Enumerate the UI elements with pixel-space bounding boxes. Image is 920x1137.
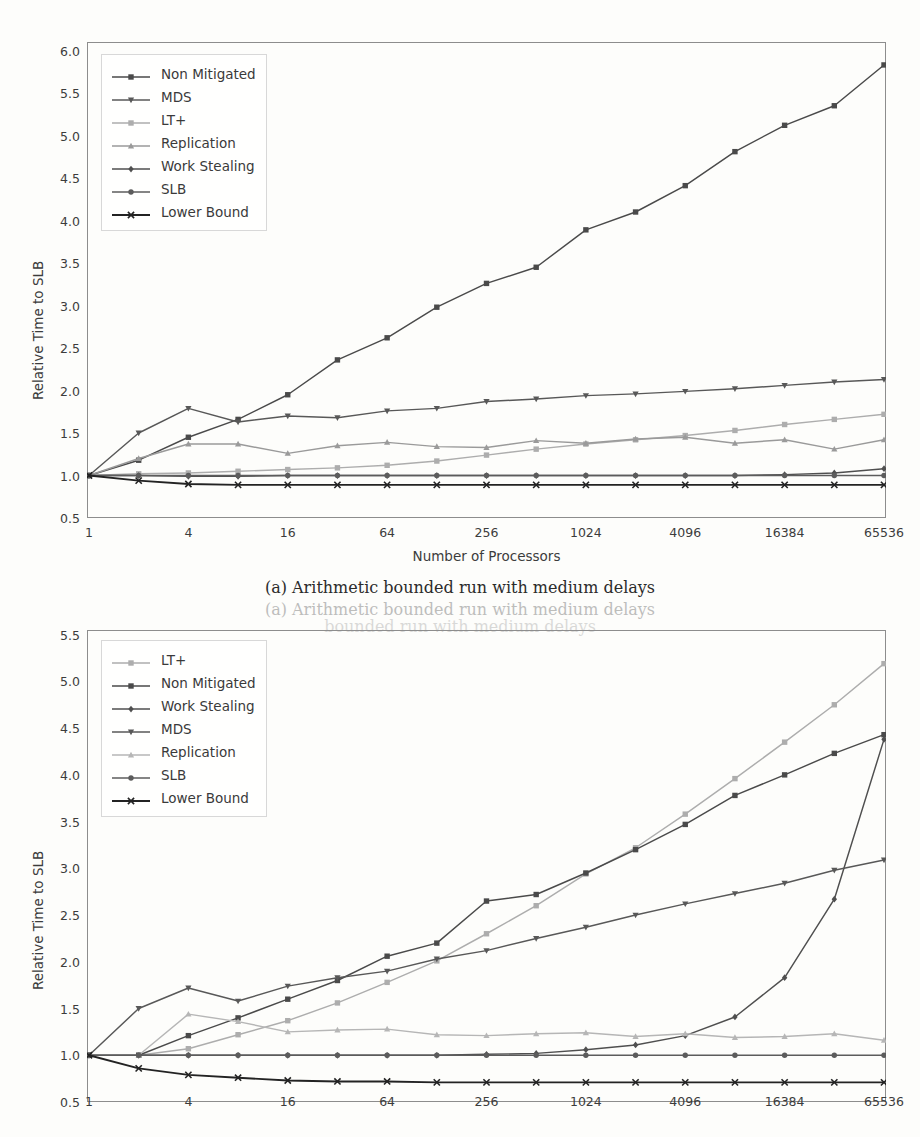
- series-replication: [87, 1011, 886, 1058]
- marker-square: [583, 227, 588, 232]
- series-slb: [87, 1053, 886, 1058]
- legend-item-slb[interactable]: SLB: [110, 763, 256, 786]
- x-tick-label: 4096: [669, 1094, 701, 1109]
- legend-item-replication[interactable]: Replication: [110, 131, 256, 154]
- marker-square: [186, 1046, 191, 1051]
- legend-swatch-icon: [110, 723, 152, 735]
- marker-square: [533, 265, 538, 270]
- marker-square: [285, 467, 290, 472]
- legend-item-mds[interactable]: MDS: [110, 717, 256, 740]
- y-tick-label: 1.0: [60, 468, 80, 483]
- marker-square: [683, 811, 688, 816]
- marker-circle: [683, 1053, 688, 1058]
- legend-item-label: Lower Bound: [161, 790, 249, 806]
- marker-circle: [881, 1053, 886, 1058]
- y-tick-label: 4.5: [60, 171, 80, 186]
- x-tick-label: 65536: [864, 1094, 904, 1109]
- legend-item-lt-[interactable]: LT+: [110, 108, 256, 131]
- marker-square: [732, 793, 737, 798]
- legend-item-work-stealing[interactable]: Work Stealing: [110, 154, 256, 177]
- marker-circle: [136, 1053, 141, 1058]
- marker-circle: [434, 473, 439, 478]
- y-tick-label: 4.0: [60, 213, 80, 228]
- legend-swatch-icon: [110, 183, 152, 195]
- legend-item-non-mitigated[interactable]: Non Mitigated: [110, 671, 256, 694]
- marker-square: [484, 931, 489, 936]
- legend-swatch-icon: [110, 114, 152, 126]
- marker-circle: [484, 1053, 489, 1058]
- marker-diamond: [128, 705, 133, 712]
- marker-square: [285, 392, 290, 397]
- marker-circle: [683, 473, 688, 478]
- marker-square: [335, 1000, 340, 1005]
- series-mds: [87, 377, 886, 479]
- marker-square: [533, 446, 538, 451]
- marker-circle: [335, 1053, 340, 1058]
- marker-circle: [484, 473, 489, 478]
- legend-item-lt-[interactable]: LT+: [110, 648, 256, 671]
- legend-a: Non MitigatedMDSLT+ReplicationWork Steal…: [101, 54, 267, 231]
- marker-circle: [136, 473, 141, 478]
- marker-square: [384, 463, 389, 468]
- marker-circle: [832, 1053, 837, 1058]
- legend-swatch-icon: [110, 792, 152, 804]
- x-tick-label: 64: [379, 525, 395, 540]
- x-tick-label: 4096: [669, 525, 701, 540]
- y-tick-label: 5.5: [60, 627, 80, 642]
- marker-circle: [881, 473, 886, 478]
- legend-item-replication[interactable]: Replication: [110, 740, 256, 763]
- y-tick-label: 1.5: [60, 1001, 80, 1016]
- legend-item-slb[interactable]: SLB: [110, 177, 256, 200]
- marker-circle: [583, 473, 588, 478]
- legend-b: LT+Non MitigatedWork StealingMDSReplicat…: [101, 640, 267, 817]
- marker-square: [128, 683, 133, 688]
- marker-triangle-down: [235, 999, 241, 1005]
- y-tick-label: 3.5: [60, 256, 80, 271]
- marker-square: [434, 305, 439, 310]
- legend-item-label: LT+: [161, 652, 186, 668]
- marker-square: [633, 847, 638, 852]
- marker-square: [285, 996, 290, 1001]
- marker-square: [683, 822, 688, 827]
- y-tick-label: 0.5: [60, 1095, 80, 1110]
- marker-square: [335, 465, 340, 470]
- marker-square: [533, 892, 538, 897]
- marker-circle: [782, 473, 787, 478]
- marker-circle: [235, 1053, 240, 1058]
- marker-square: [335, 357, 340, 362]
- y-tick-label: 3.0: [60, 298, 80, 313]
- legend-item-label: SLB: [161, 767, 186, 783]
- marker-circle: [832, 473, 837, 478]
- plot-area-a: Non MitigatedMDSLT+ReplicationWork Steal…: [87, 42, 886, 518]
- legend-swatch-icon: [110, 160, 152, 172]
- marker-circle: [732, 473, 737, 478]
- marker-square: [881, 661, 886, 666]
- legend-item-lower-bound[interactable]: Lower Bound: [110, 200, 256, 223]
- legend-item-label: Work Stealing: [161, 698, 255, 714]
- y-tick-label: 5.5: [60, 86, 80, 101]
- marker-square: [732, 776, 737, 781]
- legend-item-lower-bound[interactable]: Lower Bound: [110, 786, 256, 809]
- x-axis-title-a: Number of Processors: [87, 548, 886, 564]
- y-axis-ticks-b: 0.51.01.52.02.53.03.54.04.55.05.5: [42, 630, 80, 1102]
- y-tick-label: 5.0: [60, 128, 80, 143]
- marker-circle: [235, 473, 240, 478]
- legend-swatch-icon: [110, 769, 152, 781]
- marker-square: [285, 1018, 290, 1023]
- legend-item-non-mitigated[interactable]: Non Mitigated: [110, 62, 256, 85]
- marker-circle: [335, 473, 340, 478]
- legend-swatch-icon: [110, 68, 152, 80]
- legend-swatch-icon: [110, 746, 152, 758]
- marker-diamond: [128, 165, 133, 172]
- legend-swatch-icon: [110, 91, 152, 103]
- legend-item-mds[interactable]: MDS: [110, 85, 256, 108]
- legend-item-work-stealing[interactable]: Work Stealing: [110, 694, 256, 717]
- marker-diamond: [583, 1046, 588, 1053]
- marker-square: [484, 452, 489, 457]
- plot-area-b: LT+Non MitigatedWork StealingMDSReplicat…: [87, 630, 886, 1102]
- marker-square: [484, 898, 489, 903]
- x-tick-label: 64: [379, 1094, 395, 1109]
- legend-swatch-icon: [110, 137, 152, 149]
- marker-circle: [186, 473, 191, 478]
- marker-circle: [434, 1053, 439, 1058]
